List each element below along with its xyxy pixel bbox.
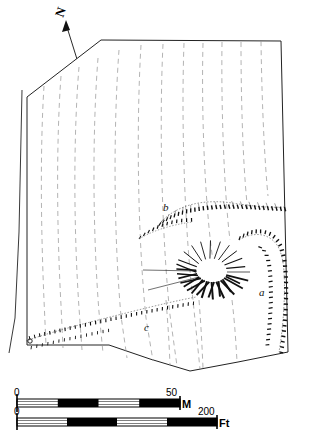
feature-label-b: b: [163, 201, 169, 213]
scale-bar-imperial: 0 200 Ft: [14, 406, 230, 430]
scale-bar-metric: 0 50 M: [14, 387, 191, 412]
feature-label-c: c: [144, 321, 149, 333]
outer-field-edge: [9, 90, 22, 353]
scale-imperial-max-label: 200: [198, 406, 215, 417]
map-canvas: N: [0, 0, 309, 444]
site-plan-figure: N: [0, 0, 309, 444]
feature-label-a: a: [259, 286, 265, 298]
scale-imperial-segment: [167, 418, 217, 426]
scale-imperial-segment: [67, 418, 117, 426]
scale-metric-unit: M: [182, 398, 191, 410]
north-arrow-head: [62, 20, 70, 32]
scale-metric-max-label: 50: [166, 387, 178, 398]
north-arrow-label: N: [52, 4, 70, 19]
scale-metric-segment: [58, 399, 99, 407]
scale-imperial-unit: Ft: [219, 417, 230, 429]
scale-metric-segment: [139, 399, 180, 407]
